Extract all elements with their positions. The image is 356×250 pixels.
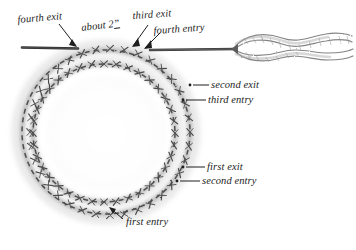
- label-about-2-unit: ”: [113, 17, 120, 29]
- stitch-diagram-figure: fourth exit about 2” third exit fourth e…: [0, 0, 356, 250]
- label-second-exit: second exit: [211, 79, 259, 90]
- label-second-entry: second entry: [202, 175, 257, 186]
- label-first-exit: first exit: [207, 161, 243, 172]
- thread-run-right: [150, 49, 236, 50]
- label-third-entry: third entry: [208, 94, 253, 105]
- stitch-illustration: [0, 0, 356, 250]
- label-first-entry: first entry: [126, 216, 168, 227]
- thread-tail: [22, 48, 78, 49]
